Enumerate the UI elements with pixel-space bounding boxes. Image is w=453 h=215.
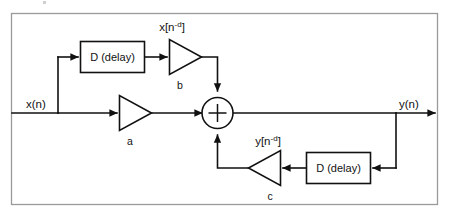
label-delayed-input-superscript: -d [175,20,182,29]
label-gain-c: c [267,190,272,202]
label-delayed-input: x[n-d] [159,20,185,33]
label-delayed-output: y[n-d] [255,134,281,147]
label-input-signal: x(n) [26,98,46,110]
diagram-canvas: x(n) y(n) D (delay) D (delay) a b c x[n-… [0,0,453,215]
label-delayed-output-base: y[n [255,135,270,147]
gain-triangle-c [249,151,281,186]
wire-gain-c-to-adder [218,135,250,168]
label-delay-block-forward: D (delay) [90,51,135,63]
signal-flow-diagram: x(n) y(n) D (delay) D (delay) a b c x[n-… [0,0,453,215]
label-gain-b: b [177,79,183,91]
gain-triangle-b [170,40,202,75]
scan-artifact [43,1,46,4]
label-delay-block-feedback: D (delay) [316,162,361,174]
label-delayed-input-base: x[n [159,21,174,33]
label-gain-a: a [127,135,133,147]
gain-triangle-a [120,96,152,131]
label-output-signal: y(n) [399,98,419,110]
label-delayed-output-close: ] [278,135,281,147]
label-delayed-input-close: ] [182,21,185,33]
wire-gain-b-to-adder [201,57,218,91]
label-delayed-output-superscript: -d [271,134,278,143]
